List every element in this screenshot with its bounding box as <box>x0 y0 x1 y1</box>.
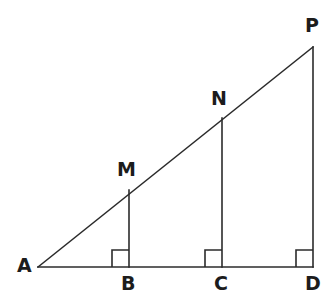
vertex-label-A: A <box>17 256 32 275</box>
right-angle-mark-at-D <box>296 250 313 267</box>
vertex-label-P: P <box>305 16 319 35</box>
vertex-label-B: B <box>121 274 135 293</box>
vertex-label-C: C <box>214 274 228 293</box>
geometry-figure <box>0 0 336 304</box>
right-angle-mark-at-B <box>112 250 129 267</box>
right-angle-mark-at-C <box>205 250 222 267</box>
segment-hypotenuse-AP <box>38 47 313 267</box>
vertex-label-N: N <box>211 89 227 108</box>
vertex-label-D: D <box>305 274 321 293</box>
geometry-diagram-canvas: A B C D M N P <box>0 0 336 304</box>
vertex-label-M: M <box>117 160 136 179</box>
